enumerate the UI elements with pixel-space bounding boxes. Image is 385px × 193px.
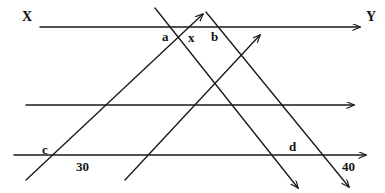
figure-canvas: [0, 0, 385, 193]
angle-c-label: c: [42, 143, 48, 156]
ray-end-label: Y: [366, 10, 376, 24]
angle-d-label: d: [289, 140, 296, 153]
transversal-up-right: [125, 35, 260, 180]
geometry-figure: X Y a x b c d 30 40: [0, 0, 385, 193]
angle-x-label: x: [188, 31, 195, 44]
angle-a-label: a: [162, 30, 169, 43]
degrees-right-label: 40: [342, 160, 355, 173]
degrees-left-label: 30: [76, 160, 89, 173]
angle-b-label: b: [211, 30, 218, 43]
ray-start-label: X: [22, 10, 32, 24]
